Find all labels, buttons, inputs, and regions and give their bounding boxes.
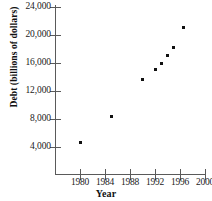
y-tick-4000 bbox=[50, 147, 61, 148]
data-point bbox=[182, 26, 185, 29]
y-axis-line bbox=[55, 5, 56, 175]
debt-vs-year-scatter-chart: 4,0008,00012,00016,00020,00024,000 19801… bbox=[0, 0, 212, 201]
x-tick-label-2000: 2000 bbox=[190, 178, 212, 188]
y-axis-title: Debt (billions of dollars) bbox=[9, 0, 19, 127]
data-point bbox=[141, 78, 144, 81]
x-axis-title: Year bbox=[0, 188, 212, 199]
y-tick-label-12000: 12,000 bbox=[25, 86, 51, 96]
data-point bbox=[172, 46, 175, 49]
data-point bbox=[79, 141, 82, 144]
y-tick-label-8000: 8,000 bbox=[30, 114, 51, 124]
data-point bbox=[160, 62, 163, 65]
data-point bbox=[110, 115, 113, 118]
data-point bbox=[154, 68, 157, 71]
y-tick-label-20000: 20,000 bbox=[25, 30, 51, 40]
y-tick-label-16000: 16,000 bbox=[25, 58, 51, 68]
y-tick-12000 bbox=[50, 91, 61, 92]
y-tick-20000 bbox=[50, 35, 61, 36]
y-tick-24000 bbox=[50, 7, 61, 8]
y-tick-label-4000: 4,000 bbox=[30, 142, 51, 152]
y-tick-16000 bbox=[50, 63, 61, 64]
y-tick-label-24000: 24,000 bbox=[25, 2, 51, 12]
plot-area: 4,0008,00012,00016,00020,00024,000 19801… bbox=[0, 0, 212, 201]
data-point bbox=[166, 54, 169, 57]
y-tick-8000 bbox=[50, 119, 61, 120]
